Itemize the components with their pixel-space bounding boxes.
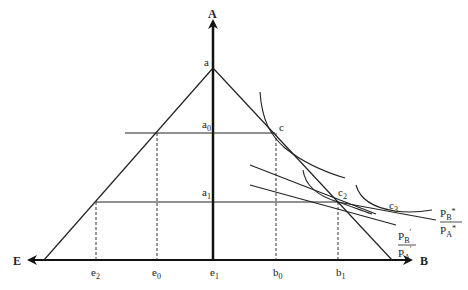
label-a0: a0 xyxy=(202,118,211,133)
svg-text:PB*: PB* xyxy=(440,207,455,222)
label-c: c xyxy=(279,121,284,133)
axis-label-e: E xyxy=(13,254,21,268)
tick-e2: e2 xyxy=(91,266,100,281)
label-a: a xyxy=(204,56,209,68)
left-frontier xyxy=(44,68,213,260)
axis-label-b: B xyxy=(420,254,428,268)
price-ratio-star: PB* PA* xyxy=(440,207,462,239)
label-c2: c2 xyxy=(338,186,347,201)
svg-text:PA*: PA* xyxy=(440,224,456,239)
svg-text:PB': PB' xyxy=(398,228,411,245)
indifference-curve-c xyxy=(260,92,345,178)
tick-e0: e0 xyxy=(152,266,161,281)
tick-e1: e1 xyxy=(210,266,219,281)
trade-diagram: A B E a a0 a1 c c2 c3 e2 e0 e1 b0 b1 PB'… xyxy=(0,0,468,290)
tick-b0: b0 xyxy=(273,266,283,281)
price-ratio-prime: PB' PA' xyxy=(398,228,416,262)
right-frontier xyxy=(213,68,392,260)
label-a1: a1 xyxy=(202,186,211,201)
tick-b1: b1 xyxy=(336,266,346,281)
axis-label-a: A xyxy=(208,7,217,21)
